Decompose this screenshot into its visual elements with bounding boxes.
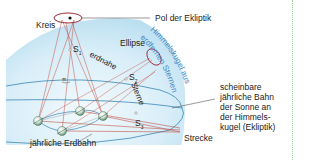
strecke-label: Strecke — [184, 133, 213, 143]
page-border — [292, 0, 293, 160]
pol-point — [68, 16, 71, 19]
pi-label: π — [62, 74, 66, 84]
ekliptik-label: scheinbare jährliche Bahn der Sonne an d… — [220, 82, 275, 132]
kreis-ellipse — [54, 13, 82, 23]
s2-point — [125, 78, 127, 80]
pol-label: Pol der Ekliptik — [155, 13, 211, 23]
s2-label: S2 — [129, 72, 137, 86]
ellipse-label: Ellipse — [120, 38, 145, 48]
s1-label: S1 — [73, 44, 81, 58]
s1-point — [69, 49, 71, 51]
erdbahn-label: jährliche Erdbahn — [30, 138, 96, 148]
s3-point — [135, 112, 137, 114]
kreis-label: Kreis — [36, 20, 55, 30]
s3-label: S3 — [135, 118, 143, 132]
